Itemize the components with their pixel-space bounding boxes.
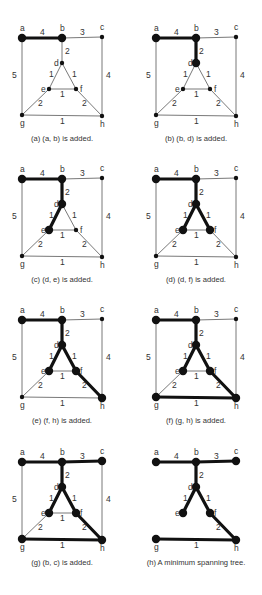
node-label-g: g (20, 259, 25, 269)
node-g (154, 254, 158, 258)
caption-c: (c) (d, e) is added. (31, 275, 93, 284)
node-f (208, 87, 212, 91)
node-label-e: e (41, 508, 46, 518)
node-label-e: e (175, 225, 180, 235)
node-label-c: c (234, 163, 239, 173)
edge-b-c (62, 178, 102, 179)
edge-b-c-tree (62, 461, 102, 462)
node-label-f: f (214, 225, 217, 235)
edge-weight-d-e: 1 (49, 210, 54, 220)
node-label-c: c (234, 446, 239, 456)
edge-weight-c-h: 4 (240, 352, 245, 362)
edge-weight-f-h: 2 (216, 98, 221, 108)
edge-weight-b-d: 2 (65, 470, 70, 480)
edge-weight-b-c: 3 (214, 168, 219, 178)
node-f (206, 509, 214, 517)
node-label-a: a (20, 447, 25, 457)
node-e (181, 87, 185, 91)
edge-weight-c-h: 4 (106, 352, 111, 362)
node-g (20, 254, 24, 258)
panel-g: 43254111221abcdefgh(g) (b, c) is added. (12, 446, 111, 567)
node-d (192, 341, 200, 349)
node-label-b: b (194, 447, 199, 457)
edge-weight-b-d: 2 (65, 46, 70, 56)
node-label-b: b (60, 305, 65, 315)
node-d (192, 483, 200, 491)
node-f (72, 367, 80, 375)
node-label-g: g (154, 542, 159, 552)
node-label-h: h (234, 260, 239, 270)
edge-weight-a-b: 4 (174, 451, 179, 461)
edge-weight-a-g: 5 (12, 211, 17, 221)
edge-weight-d-f: 1 (72, 493, 77, 503)
edge-weight-a-g: 5 (146, 70, 151, 80)
edge-weight-e-g: 2 (38, 239, 43, 249)
node-d (58, 341, 66, 349)
node-a (18, 316, 26, 324)
node-label-h: h (100, 401, 105, 411)
node-label-a: a (154, 164, 159, 174)
node-a (152, 458, 160, 466)
node-e (45, 226, 53, 234)
node-label-c: c (100, 304, 105, 314)
node-label-b: b (60, 23, 65, 33)
edge-weight-f-h: 2 (216, 239, 221, 249)
node-label-c: c (234, 22, 239, 32)
edge-weight-f-h: 2 (82, 522, 87, 532)
edge-weight-b-d: 2 (199, 328, 204, 338)
node-e (45, 509, 53, 517)
edge-weight-b-c: 3 (80, 309, 85, 319)
node-label-e: e (41, 366, 46, 376)
node-h (100, 255, 104, 259)
edge-weight-c-h: 4 (240, 211, 245, 221)
panel-c: 43254111221abcdefgh(c) (d, e) is added. (12, 163, 111, 284)
node-e (179, 367, 187, 375)
edge-weight-b-c: 3 (80, 168, 85, 178)
edge-weight-e-f: 1 (60, 371, 65, 381)
node-b (192, 34, 200, 42)
node-c (234, 35, 238, 39)
node-label-d: d (54, 58, 59, 68)
node-label-h: h (234, 543, 239, 553)
node-b (58, 34, 66, 42)
node-label-f: f (80, 225, 83, 235)
edge-weight-b-c: 3 (214, 451, 219, 461)
edge-weight-d-e: 1 (183, 493, 188, 503)
node-label-g: g (20, 542, 25, 552)
edge-weight-f-h: 2 (216, 380, 221, 390)
panel-e: 43254111221abcdefgh(e) (f, h) is added. (12, 304, 111, 425)
node-label-d: d (188, 199, 193, 209)
edge-weight-a-g: 5 (146, 352, 151, 362)
edge-b-c (62, 37, 102, 38)
edge-weight-d-e: 1 (183, 210, 188, 220)
node-h (234, 255, 238, 259)
edge-weight-d-f: 1 (72, 210, 77, 220)
node-label-f: f (214, 366, 217, 376)
node-label-g: g (154, 400, 159, 410)
edge-weight-d-e: 1 (183, 69, 188, 79)
node-label-c: c (234, 304, 239, 314)
node-label-e: e (175, 508, 180, 518)
edge-weight-b-c: 3 (214, 309, 219, 319)
node-b (192, 316, 200, 324)
node-d (58, 200, 66, 208)
edge-weight-c-h: 4 (106, 211, 111, 221)
node-label-b: b (60, 164, 65, 174)
edge-weight-a-g: 5 (12, 70, 17, 80)
node-label-f: f (80, 84, 83, 94)
node-c (100, 317, 104, 321)
edge-weight-e-g: 2 (38, 522, 43, 532)
node-label-h: h (234, 401, 239, 411)
edge-weight-f-h: 2 (82, 239, 87, 249)
node-d (192, 59, 200, 67)
edge-weight-b-d: 2 (199, 187, 204, 197)
edge-weight-e-g: 2 (172, 98, 177, 108)
edge-weight-c-h: 4 (106, 70, 111, 80)
node-label-a: a (154, 447, 159, 457)
node-label-a: a (20, 164, 25, 174)
node-label-a: a (154, 23, 159, 33)
edge-weight-f-h: 2 (82, 380, 87, 390)
caption-d: (d) (d, f) is added. (166, 275, 226, 284)
edge-weight-e-f: 1 (194, 230, 199, 240)
node-label-d: d (188, 340, 193, 350)
